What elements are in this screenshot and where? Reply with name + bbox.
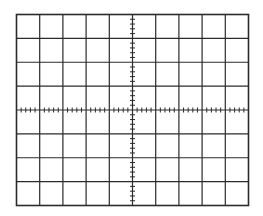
oscilloscope-graticule: [0, 0, 263, 216]
